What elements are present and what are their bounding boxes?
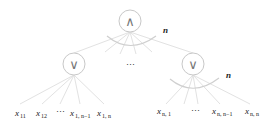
- or-symbol: ∨: [188, 57, 198, 72]
- and-symbol: ∧: [125, 14, 135, 29]
- right-fanout-label: n: [226, 70, 231, 80]
- root-fanout-label: n: [163, 25, 168, 35]
- root-edges: [74, 32, 193, 54]
- svg-text:n, n: n, n: [250, 111, 259, 117]
- svg-text:x: x: [96, 108, 101, 118]
- leaf-xn-n-1: x n, n−1: [211, 106, 232, 117]
- svg-text:12: 12: [41, 113, 47, 119]
- leaf-xn-1: x n, 1: [156, 106, 171, 117]
- svg-text:x: x: [69, 108, 74, 118]
- or-symbol: ∨: [69, 57, 79, 72]
- svg-text:x: x: [35, 108, 40, 118]
- svg-text:x: x: [211, 106, 216, 116]
- svg-text:x: x: [244, 106, 249, 116]
- svg-text:11: 11: [20, 113, 26, 119]
- svg-text:x: x: [14, 108, 19, 118]
- svg-text:1, n: 1, n: [102, 113, 111, 119]
- left-or-node: ∨: [63, 53, 85, 75]
- svg-text:x: x: [156, 106, 161, 116]
- leaf-x1-n: x 1, n: [96, 108, 111, 119]
- svg-text:n, 1: n, 1: [162, 111, 171, 117]
- leaf-x11: x 11: [14, 108, 26, 119]
- root-and-node: ∧: [119, 10, 141, 32]
- middle-ellipsis: ⋯: [126, 60, 135, 70]
- svg-text:n, n−1: n, n−1: [217, 111, 232, 117]
- and-or-tree-diagram: n n ∧ ∨ ∨ ⋯ x 11 x 12 ⋯ x 1, n−1 x 1, n …: [0, 0, 275, 128]
- left-child-edges: [20, 75, 104, 104]
- leaf-x12: x 12: [35, 108, 47, 119]
- svg-text:1, n−1: 1, n−1: [75, 113, 90, 119]
- right-leaves-ellipsis: ⋯: [191, 106, 200, 116]
- leaf-xn-n: x n, n: [244, 106, 259, 117]
- right-child-edges: [166, 75, 250, 104]
- leaf-x1-n-1: x 1, n−1: [69, 108, 90, 119]
- right-or-node: ∨: [182, 53, 204, 75]
- left-leaves-ellipsis: ⋯: [56, 107, 65, 117]
